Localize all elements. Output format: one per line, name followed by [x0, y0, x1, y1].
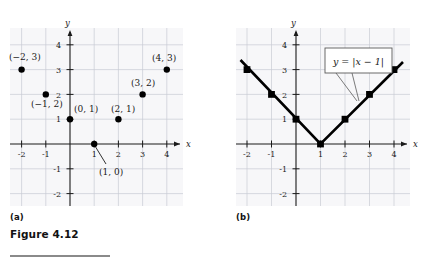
curve-marker [317, 141, 324, 148]
curve-marker [293, 116, 300, 123]
panel-a-label: (a) [10, 212, 24, 222]
x-tick-label-neg1: -1 [268, 150, 276, 159]
curve-marker [366, 91, 373, 98]
y-tick-label-4: 4 [282, 41, 287, 50]
panel-b-line-plot: x y -2 -1 1 2 3 4 4 3 2 1 -1 -2 [0, 0, 435, 215]
y-tick-label-3: 3 [282, 66, 287, 75]
figure-caption: Figure 4.12 [10, 228, 79, 240]
y-tick-label-neg1: -1 [279, 165, 287, 174]
equation-label: y = |x − 1| [332, 56, 384, 68]
x-tick-label-2: 2 [342, 150, 347, 159]
curve-marker [268, 91, 275, 98]
y-tick-label-1: 1 [282, 115, 287, 124]
curve-marker [244, 66, 251, 73]
y-tick-label-2: 2 [282, 91, 287, 100]
panel-b-label: (b) [236, 212, 250, 222]
x-axis-label: x [413, 139, 418, 149]
x-tick-label-neg2: -2 [243, 150, 251, 159]
x-tick-label-3: 3 [367, 150, 372, 159]
y-tick-label-neg2: -2 [279, 190, 287, 199]
footnote-separator-rule [10, 255, 110, 257]
y-axis-label: y [290, 18, 296, 28]
curve-marker [342, 116, 349, 123]
x-tick-label-4: 4 [391, 150, 396, 159]
figure-container: x y -2 -1 1 2 3 4 4 3 2 1 -1 -2 [0, 0, 435, 265]
x-tick-label-1: 1 [318, 150, 323, 159]
